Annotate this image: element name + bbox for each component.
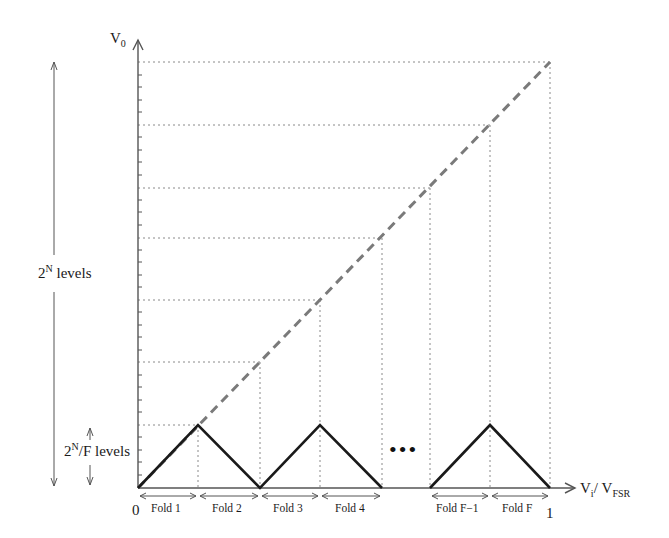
ellipsis-icon: ••• <box>389 437 418 463</box>
x-tick-zero: 0 <box>132 502 140 519</box>
ideal-transfer-line <box>138 62 550 488</box>
folding-waveform <box>138 425 550 488</box>
fold-label-2: Fold 2 <box>212 502 242 514</box>
fold-levels-label: 2N/F levels <box>64 441 130 460</box>
fold-label-f: Fold F <box>502 502 532 514</box>
fold-span-arrows <box>140 493 548 499</box>
fold-label-f-minus-1: Fold F−1 <box>436 502 479 514</box>
x-tick-one: 1 <box>546 505 554 522</box>
y-axis-label: V0 <box>110 30 126 49</box>
fold-label-3: Fold 3 <box>273 502 303 514</box>
fold-label-1: Fold 1 <box>151 502 181 514</box>
x-axis-label: Vi/ VFSR <box>580 480 630 499</box>
fold-label-4: Fold 4 <box>335 502 365 514</box>
total-levels-label: 2N levels <box>36 263 93 282</box>
